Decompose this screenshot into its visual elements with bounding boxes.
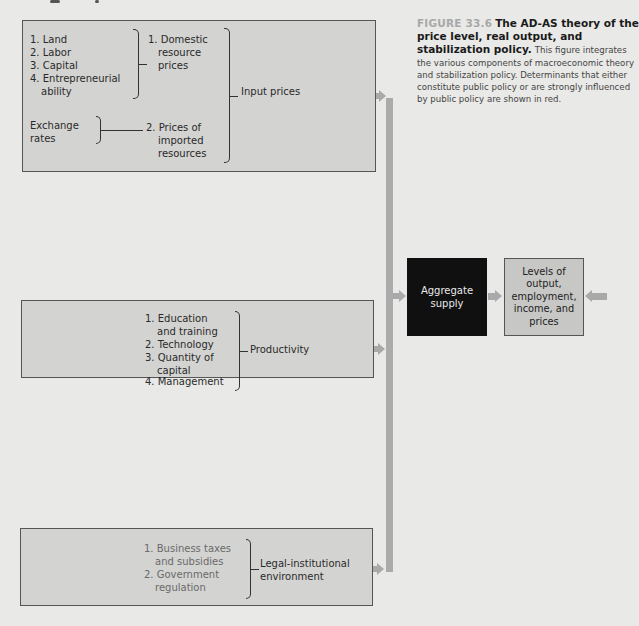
productivity-item: 2. Technology xyxy=(145,338,214,351)
imported-prices-label: imported xyxy=(158,134,204,147)
aggregate-supply-box: Aggregate supply xyxy=(407,258,487,336)
resource-item: 4. Entrepreneurial xyxy=(30,72,120,85)
resource-item: 2. Labor xyxy=(30,46,71,59)
figure-caption: FIGURE 33.6 The AD-AS theory of the pric… xyxy=(417,17,639,105)
domestic-prices-label: 1. Domestic xyxy=(148,33,208,46)
cropped-heading-fragment xyxy=(0,0,200,4)
levels-label: prices xyxy=(511,316,576,329)
legal-item: regulation xyxy=(155,581,206,594)
productivity-item: 4. Management xyxy=(145,375,224,388)
levels-label: income, and xyxy=(511,303,576,316)
figure-label: FIGURE 33.6 xyxy=(417,17,492,29)
brace-resources xyxy=(133,29,139,99)
legal-item: 2. Government xyxy=(144,568,219,581)
imported-prices-label: resources xyxy=(158,147,206,160)
aggregate-supply-label: Aggregate xyxy=(421,284,473,297)
brace-legal xyxy=(246,539,251,599)
productivity-item: and training xyxy=(157,325,218,338)
resource-item: 3. Capital xyxy=(30,59,78,72)
productivity-item: 1. Education xyxy=(145,312,208,325)
brace-input-prices xyxy=(224,28,230,163)
resource-item: ability xyxy=(41,85,72,98)
vertical-connector-bar xyxy=(386,98,393,572)
legal-item: 1. Business taxes xyxy=(144,542,231,555)
productivity-item: 3. Quantity of xyxy=(145,351,214,364)
legal-label: environment xyxy=(260,570,324,583)
levels-label: Levels of xyxy=(511,266,576,279)
connector-line xyxy=(101,130,143,131)
brace-productivity xyxy=(235,311,240,391)
domestic-prices-label: prices xyxy=(158,59,188,72)
levels-label: output, xyxy=(511,278,576,291)
imported-prices-label: 2. Prices of xyxy=(146,121,201,134)
exchange-rates-label: Exchange xyxy=(30,119,79,132)
exchange-rates-label: rates xyxy=(30,132,56,145)
levels-output-box: Levels of output, employment, income, an… xyxy=(504,258,584,336)
levels-label: employment, xyxy=(511,291,576,304)
legal-label: Legal-institutional xyxy=(260,557,350,570)
resource-item: 1. Land xyxy=(30,33,67,46)
productivity-label: Productivity xyxy=(250,343,309,356)
input-prices-label: Input prices xyxy=(241,85,300,98)
legal-item: and subsidies xyxy=(155,555,223,568)
aggregate-supply-label: supply xyxy=(421,297,473,310)
domestic-prices-label: resource xyxy=(158,46,201,59)
